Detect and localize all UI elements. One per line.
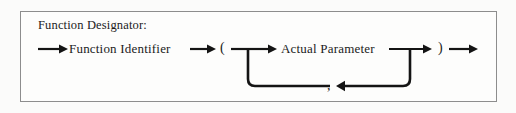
- node-right-paren: ): [438, 40, 443, 56]
- node-function-identifier: Function Identifier: [69, 41, 171, 57]
- exit-arrow: [449, 44, 478, 53]
- identifier-to-lparen-arrow: [190, 44, 216, 53]
- node-actual-parameter: Actual Parameter: [281, 41, 375, 57]
- screenshot-canvas: Function Designator: Function Identifier…: [0, 0, 516, 113]
- diagram-title: Function Designator:: [38, 18, 147, 33]
- into-actual-parameter-arrow: [250, 44, 277, 53]
- entry-arrow: [38, 44, 68, 53]
- node-left-paren: (: [220, 40, 225, 56]
- loop-back-arrowhead: [336, 81, 345, 91]
- node-comma-separator: ,: [327, 78, 331, 94]
